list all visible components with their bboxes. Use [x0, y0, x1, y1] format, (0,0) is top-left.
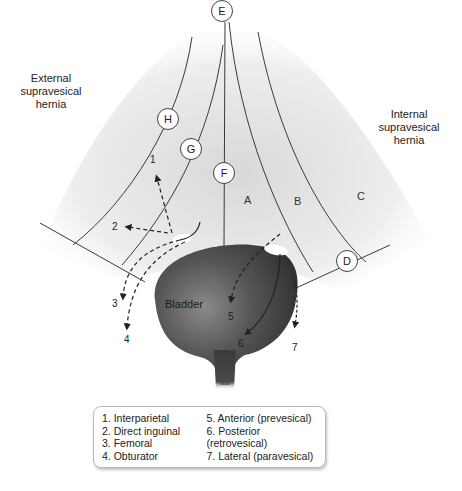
- internal-label-line3: hernia: [376, 134, 442, 147]
- circle-label-h: H: [157, 108, 179, 130]
- external-label-line1: External: [18, 72, 84, 85]
- path-number-5: 5: [228, 311, 234, 322]
- zone-label-c: C: [357, 190, 365, 202]
- bladder-label: Bladder: [165, 298, 203, 310]
- path-number-7: 7: [292, 342, 298, 353]
- internal-label-line2: supravesical: [376, 121, 442, 134]
- path-number-6: 6: [238, 338, 244, 349]
- path-number-1: 1: [150, 154, 156, 165]
- legend-box: 1. Interparietal 2. Direct inguinal 3. F…: [93, 406, 326, 468]
- external-supravesical-hernia-label: External supravesical hernia: [18, 72, 84, 111]
- legend-item-6: 6. Posterior (retrovesical): [206, 425, 317, 450]
- path-number-3: 3: [112, 298, 118, 309]
- legend-column-left: 1. Interparietal 2. Direct inguinal 3. F…: [102, 412, 192, 462]
- zone-label-b: B: [294, 195, 301, 207]
- path-number-4: 4: [124, 334, 130, 345]
- legend-column-right: 5. Anterior (prevesical) 6. Posterior (r…: [206, 412, 317, 462]
- internal-label-line1: Internal: [376, 108, 442, 121]
- legend-item-2: 2. Direct inguinal: [102, 425, 192, 438]
- legend-item-5: 5. Anterior (prevesical): [206, 412, 317, 425]
- legend-item-3: 3. Femoral: [102, 437, 192, 450]
- zone-label-a: A: [244, 194, 251, 206]
- external-label-line2: supravesical: [18, 85, 84, 98]
- circle-label-e: E: [211, 0, 233, 22]
- legend-item-4: 4. Obturator: [102, 450, 192, 463]
- circle-label-f: F: [213, 162, 235, 184]
- circle-label-g: G: [180, 138, 202, 160]
- external-label-line3: hernia: [18, 98, 84, 111]
- path-number-2: 2: [112, 221, 118, 232]
- internal-supravesical-hernia-label: Internal supravesical hernia: [376, 108, 442, 147]
- legend-item-7: 7. Lateral (paravesical): [206, 450, 317, 463]
- legend-item-1: 1. Interparietal: [102, 412, 192, 425]
- circle-label-d: D: [336, 250, 358, 272]
- urethra: [214, 350, 236, 390]
